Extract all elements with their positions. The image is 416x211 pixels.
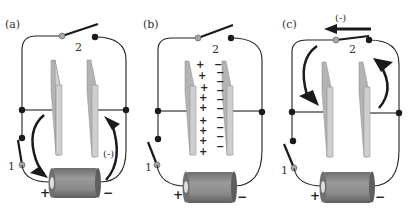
battery-minus-label: −	[103, 186, 113, 200]
switch-2-pivot	[59, 33, 65, 39]
panel-label-a: (a)	[5, 18, 20, 31]
battery-plus-label: +	[310, 189, 320, 203]
capacitor-diagram: (a) 2 1	[0, 0, 416, 211]
svg-text:+: +	[199, 135, 207, 146]
battery	[320, 172, 376, 204]
electron-flow-arrow-left	[30, 115, 48, 178]
left-plate-charges: + + + + + + + + +	[196, 59, 208, 157]
switch-1-blade	[18, 140, 22, 165]
electron-tag: (-)	[103, 148, 114, 159]
switch-2-blade	[62, 24, 98, 36]
switch-1-label: 1	[281, 164, 288, 177]
wire-bottom-right	[234, 112, 262, 186]
battery-plus-label: +	[173, 188, 183, 202]
battery-plus-label: +	[40, 186, 50, 200]
electron-flow-arrow-right	[373, 58, 393, 108]
wire-top-right	[231, 38, 262, 113]
svg-text:+: +	[198, 70, 206, 81]
panel-b: (b) 2 + + + + + + + + +	[143, 18, 265, 204]
switch-2-label: 2	[349, 43, 356, 56]
switch-2-blade	[198, 25, 233, 38]
wire-bottom-left	[294, 168, 323, 186]
electron-tag: (-)	[335, 12, 346, 23]
wire-bottom-right	[372, 113, 399, 186]
left-plate	[51, 60, 62, 155]
switch-2-label: 2	[212, 43, 219, 56]
svg-text:+: +	[196, 59, 204, 70]
right-plate	[359, 62, 370, 157]
switch-2-pivot	[333, 37, 339, 43]
wire-top-right	[95, 37, 126, 113]
electron-flow-arrow-top	[324, 24, 371, 34]
panel-c: (c) (-) 2	[281, 12, 402, 204]
electron-flow-arrow-left	[299, 46, 319, 106]
left-plate	[185, 61, 196, 155]
panel-a: (a) 2 1	[5, 18, 129, 200]
panel-label-b: (b)	[143, 18, 159, 31]
battery	[49, 168, 102, 198]
right-plate-charges: − − − − − − − − − −	[214, 59, 224, 152]
wire-bottom-left	[157, 165, 186, 186]
switch-1-contact	[290, 138, 296, 144]
svg-text:+: +	[199, 146, 207, 157]
switch-2-blade	[336, 36, 369, 40]
switch-1-contact	[155, 136, 161, 142]
left-plate	[322, 62, 333, 157]
switch-1-contact	[19, 135, 25, 141]
switch-1-label: 1	[145, 161, 152, 174]
svg-text:+: +	[199, 102, 207, 113]
battery	[183, 172, 238, 204]
battery-minus-label: −	[375, 190, 385, 204]
switch-2-pivot	[195, 35, 201, 41]
battery-minus-label: −	[237, 190, 247, 204]
panel-label-c: (c)	[282, 18, 297, 31]
svg-text:−: −	[216, 141, 224, 152]
switch-1-label: 1	[8, 160, 15, 173]
right-plate	[87, 60, 98, 157]
switch-2-label: 2	[75, 41, 82, 54]
